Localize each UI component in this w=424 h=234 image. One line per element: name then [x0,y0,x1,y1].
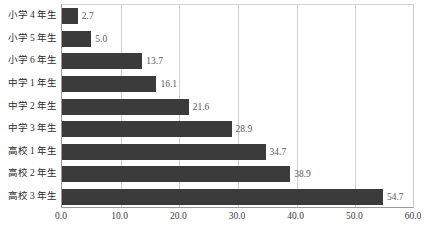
bar-value-label: 13.7 [142,56,163,66]
x-tick-label: 30.0 [229,210,246,222]
bars-layer: 2.75.013.716.121.628.934.738.954.7 [62,5,413,207]
category-label: 小学 4 年生 [0,10,57,20]
category-label: 小学 6 年生 [0,55,57,65]
category-label: 高校 3 年生 [0,191,57,201]
x-tick-label: 10.0 [111,210,128,222]
bar [62,99,189,115]
category-label: 中学 3 年生 [0,123,57,133]
bar [62,189,383,205]
bar-value-label: 34.7 [266,147,287,157]
bar-row: 54.7 [62,189,414,205]
x-tick-label: 40.0 [287,210,304,222]
bar-row: 2.7 [62,8,414,24]
bar-row: 5.0 [62,31,414,47]
bar-row: 38.9 [62,166,414,182]
bar-value-label: 2.7 [78,11,94,21]
bar [62,121,232,137]
bar-row: 28.9 [62,121,414,137]
category-label: 高校 1 年生 [0,146,57,156]
bar-value-label: 28.9 [232,124,253,134]
bar [62,31,91,47]
category-label: 高校 2 年生 [0,168,57,178]
bar-chart: 小学 4 年生小学 5 年生小学 6 年生中学 1 年生中学 2 年生中学 3 … [0,0,424,234]
bar-value-label: 21.6 [189,102,210,112]
bar-row: 13.7 [62,53,414,69]
category-label: 中学 1 年生 [0,78,57,88]
x-tick-label: 60.0 [405,210,422,222]
bar [62,76,156,92]
category-axis-labels: 小学 4 年生小学 5 年生小学 6 年生中学 1 年生中学 2 年生中学 3 … [0,0,61,209]
bar-value-label: 5.0 [91,34,107,44]
bar [62,166,290,182]
bar [62,8,78,24]
bar-row: 21.6 [62,99,414,115]
x-tick-label: 50.0 [346,210,363,222]
bar-value-label: 38.9 [290,169,311,179]
x-tick-label: 0.0 [55,210,67,222]
bar-value-label: 16.1 [156,79,177,89]
x-axis-tick-labels: 0.010.020.030.040.050.060.0 [0,210,424,226]
bar [62,144,266,160]
category-label: 小学 5 年生 [0,33,57,43]
category-label: 中学 2 年生 [0,101,57,111]
bar [62,53,142,69]
plot-area: 2.75.013.716.121.628.934.738.954.7 [61,4,414,208]
bar-row: 34.7 [62,144,414,160]
bar-value-label: 54.7 [383,192,404,202]
bar-row: 16.1 [62,76,414,92]
x-tick-label: 20.0 [170,210,187,222]
